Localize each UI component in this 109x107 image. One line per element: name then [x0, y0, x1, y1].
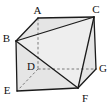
- figure-canvas: ABCDEFG: [0, 0, 109, 107]
- vertex-label-D: D: [27, 60, 35, 72]
- vertex-label-G: G: [99, 62, 107, 74]
- vertex-label-B: B: [3, 32, 10, 44]
- vertex-label-C: C: [92, 3, 99, 15]
- vertex-label-E: E: [4, 84, 11, 96]
- vertex-label-A: A: [34, 4, 42, 16]
- vertex-label-F: F: [82, 92, 88, 104]
- solid-figure-svg: ABCDEFG: [0, 0, 109, 107]
